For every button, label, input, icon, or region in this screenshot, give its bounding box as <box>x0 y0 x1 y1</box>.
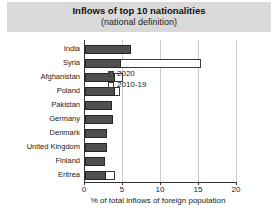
category-label-india: India <box>0 44 80 53</box>
legend-item-2020: 2020 <box>108 69 146 78</box>
bar-2020-germany <box>85 115 113 124</box>
category-label-germany: Germany <box>0 114 80 123</box>
category-label-eritrea: Eritrea <box>0 170 80 179</box>
tick-label-5: 5 <box>112 185 132 194</box>
bar-2020-syria <box>85 59 121 68</box>
gridline <box>236 40 237 182</box>
bar-2020-eritrea <box>85 171 106 180</box>
legend-swatch-2020 <box>108 71 114 77</box>
bar-2020-united-kingdom <box>85 143 107 152</box>
tick-label-20: 20 <box>226 185 246 194</box>
plot-area <box>84 40 237 183</box>
tick-label-10: 10 <box>150 185 170 194</box>
legend-item-2010-19: 2010-19 <box>108 80 146 89</box>
bar-2020-pakistan <box>85 101 112 110</box>
bar-2020-finland <box>85 157 105 166</box>
legend-label: 2010-19 <box>117 80 146 89</box>
tick-label-15: 15 <box>188 185 208 194</box>
chart-title: Inflows of top 10 nationalities <box>72 6 205 17</box>
category-label-finland: Finland <box>0 156 80 165</box>
category-label-pakistan: Pakistan <box>0 100 80 109</box>
category-label-poland: Poland <box>0 86 80 95</box>
category-label-afghanistan: Afghanistan <box>0 72 80 81</box>
bar-2020-denmark <box>85 129 107 138</box>
category-label-united-kingdom: United Kingdom <box>0 142 80 151</box>
x-axis-title: % of total inflows of foreign population <box>58 196 258 205</box>
legend: 20202010-19 <box>108 69 146 89</box>
chart-title-banner: Inflows of top 10 nationalities (nationa… <box>7 2 271 32</box>
tick-label-0: 0 <box>74 185 94 194</box>
legend-swatch-2010-19 <box>108 82 114 88</box>
chart-figure: Inflows of top 10 nationalities (nationa… <box>0 0 278 212</box>
bar-2020-india <box>85 45 131 54</box>
chart-subtitle: (national definition) <box>101 17 177 27</box>
category-label-syria: Syria <box>0 58 80 67</box>
legend-label: 2020 <box>117 69 135 78</box>
category-label-denmark: Denmark <box>0 128 80 137</box>
